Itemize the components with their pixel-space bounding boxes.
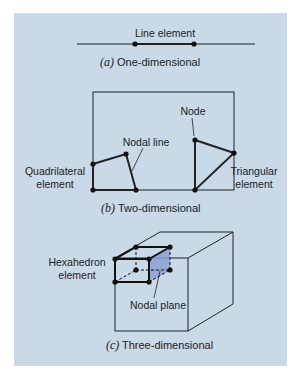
hexahedron-label-line2: element <box>58 269 95 281</box>
node-dot <box>90 187 95 192</box>
three-dimensional-panel: Hexahedron element Nodal plane (c) Three… <box>48 232 233 352</box>
hexahedron-label-line1: Hexahedron <box>48 256 105 268</box>
triangular-label-line2: element <box>235 178 272 190</box>
node-dot <box>192 137 197 142</box>
node-leader <box>192 118 194 136</box>
node-dot <box>133 187 138 192</box>
quadrilateral-label-line2: element <box>36 178 73 190</box>
nodal-line-label: Nodal line <box>123 136 170 148</box>
node-dot <box>133 244 138 249</box>
node-dot <box>90 161 95 166</box>
line-element-label: Line element <box>135 27 195 39</box>
node-dot <box>112 256 117 261</box>
nodal-plane-label: Nodal plane <box>130 299 186 311</box>
two-dimensional-panel: Node Nodal line Quadrilateral element Tr… <box>25 92 278 215</box>
node-dot <box>191 41 196 46</box>
caption-three-dimensional: Three-dimensional <box>122 339 213 351</box>
node-dot <box>167 244 172 249</box>
node-dot <box>123 151 128 156</box>
triangular-element <box>195 140 234 190</box>
caption-letter-b: (b) <box>101 201 115 215</box>
node-dot <box>231 150 236 155</box>
node-dot <box>167 267 172 272</box>
node-dot <box>112 279 117 284</box>
node-dot <box>146 256 151 261</box>
node-dot <box>133 267 138 272</box>
node-dot <box>132 41 137 46</box>
node-dot <box>146 279 151 284</box>
quadrilateral-element <box>93 154 136 190</box>
caption-letter-a: (a) <box>100 55 114 69</box>
caption-one-dimensional: One-dimensional <box>117 56 200 68</box>
caption-letter-c: (c) <box>106 338 119 352</box>
one-dimensional-panel: Line element (a) One-dimensional <box>77 27 255 69</box>
nodal-line-leader <box>132 148 143 171</box>
triangular-label-line1: Triangular <box>231 165 278 177</box>
caption-two-dimensional: Two-dimensional <box>118 202 201 214</box>
node-dot <box>192 187 197 192</box>
node-label: Node <box>180 105 205 117</box>
quadrilateral-label-line1: Quadrilateral <box>25 165 85 177</box>
finite-element-types-figure: Line element (a) One-dimensional Node No… <box>0 0 303 380</box>
